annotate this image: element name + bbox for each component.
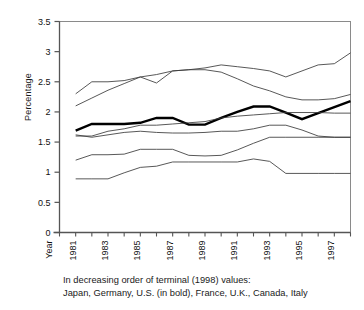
- caption-line-2: Japan, Germany, U.S. (in bold), France, …: [63, 287, 363, 300]
- x-axis-tick-label: 1987: [165, 241, 175, 261]
- x-axis-tick-label: 1991: [229, 240, 239, 260]
- y-axis-tick-label: 3.5: [38, 17, 51, 27]
- x-axis-name-label: Year: [44, 241, 54, 259]
- caption-line-1: In decreasing order of terminal (1998) v…: [63, 274, 363, 287]
- x-axis-tick-label: 1989: [197, 241, 207, 261]
- series-line-japan: [76, 53, 351, 106]
- x-axis-tick-label: 1985: [132, 241, 142, 261]
- y-axis-tick-label: 2: [45, 107, 50, 117]
- line-chart: 00.511.522.533.5198119831985198719891991…: [0, 0, 364, 310]
- plot-area-border: [60, 22, 351, 233]
- y-axis-tick-label: 3: [45, 47, 50, 57]
- chart-caption: In decreasing order of terminal (1998) v…: [63, 274, 363, 299]
- series-line-germany: [76, 70, 351, 100]
- y-axis-tick-label: 0.5: [38, 198, 51, 208]
- series-line-u-k: [76, 125, 351, 137]
- series-line-u-s: [76, 101, 351, 131]
- series-line-canada: [76, 137, 351, 160]
- y-axis-tick-label: 2.5: [38, 77, 51, 87]
- y-axis-tick-label: 0: [45, 228, 50, 238]
- y-axis-tick-label: 1: [45, 167, 50, 177]
- x-axis-tick-label: 1995: [294, 241, 304, 261]
- x-axis-tick-label: 1981: [68, 241, 78, 261]
- x-axis-tick-label: 1997: [326, 241, 336, 261]
- x-axis-tick-label: 1983: [100, 241, 110, 261]
- chart-figure: Percentage 00.511.522.533.51981198319851…: [0, 0, 364, 310]
- y-axis-tick-label: 1.5: [38, 137, 51, 147]
- series-line-italy: [76, 159, 351, 179]
- x-axis-tick-label: 1993: [262, 241, 272, 261]
